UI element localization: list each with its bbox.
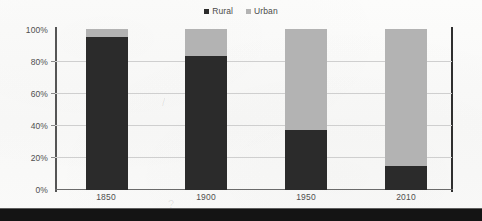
y-axis-label-0: 0% — [4, 186, 48, 195]
y-axis-label-40: 40% — [4, 122, 48, 131]
y-axis-label-20: 20% — [4, 154, 48, 163]
y-axis-label-80: 80% — [4, 58, 48, 67]
x-axis-label-1900: 1900 — [166, 193, 246, 202]
x-axis-label-1950: 1950 — [266, 193, 346, 202]
page-edge-highlight — [0, 208, 482, 209]
bar-segment-urban-1900[interactable] — [185, 29, 227, 56]
x-axis-label-1850: 1850 — [66, 193, 146, 202]
x-axis-label-2010: 2010 — [366, 193, 446, 202]
bar-segment-urban-2010[interactable] — [385, 29, 427, 166]
chart-legend: Rural Urban — [0, 4, 482, 18]
bar-segment-rural-1900[interactable] — [185, 56, 227, 190]
bar-segment-rural-2010[interactable] — [385, 166, 427, 190]
legend-label-urban: Urban — [254, 7, 278, 16]
bar-segment-urban-1850[interactable] — [86, 29, 128, 37]
bar-segment-rural-1850[interactable] — [86, 37, 128, 190]
legend-label-rural: Rural — [212, 7, 233, 16]
page-bottom-dark-band — [0, 209, 482, 221]
chart-screenshot: / ? Rural Urban 100% 80% 60% 40% 20% 0% — [0, 0, 482, 221]
y-axis-label-100: 100% — [4, 26, 48, 35]
chart-plot-wrapper: 100% 80% 60% 40% 20% 0% — [0, 0, 482, 221]
plot-area — [55, 29, 452, 190]
bar-segment-urban-1950[interactable] — [285, 29, 327, 130]
y-axis-label-60: 60% — [4, 90, 48, 99]
legend-item-urban[interactable]: Urban — [246, 7, 278, 16]
legend-swatch-urban-icon — [246, 9, 251, 14]
bar-segment-rural-1950[interactable] — [285, 130, 327, 190]
legend-item-rural[interactable]: Rural — [204, 7, 233, 16]
legend-swatch-rural-icon — [204, 9, 209, 14]
